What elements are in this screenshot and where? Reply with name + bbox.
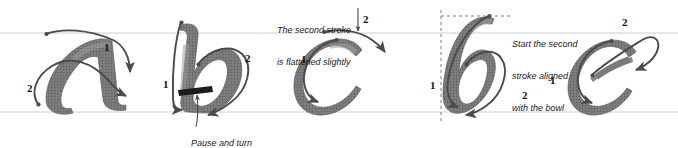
annotation-second-stroke-flattened-line1: The second stroke <box>277 25 351 36</box>
annotation-start-second-stroke-line3: with the bowl <box>512 103 578 114</box>
annotation-pause-and-turn: Pause and turn <box>181 127 252 148</box>
stroke-number-a-2: 2 <box>27 82 33 94</box>
glyph-e <box>568 37 658 115</box>
glyph-b <box>173 20 248 127</box>
annotation-start-second-stroke-line1: Start the second <box>512 39 578 50</box>
glyph-b-stroke1-arrow <box>173 22 182 110</box>
glyph-d <box>441 10 512 122</box>
annotation-second-stroke-flattened: The second stroke is flattened slightly <box>277 4 351 89</box>
stroke-order-diagram: 1 2 1 2 1 2 1 2 1 2 Pause and turn The s… <box>0 0 678 148</box>
glyph-b-letter-body <box>180 24 242 113</box>
stroke-number-d-1: 1 <box>430 79 436 91</box>
glyph-a <box>34 30 130 114</box>
annotation-pause-and-turn-text: Pause and turn <box>191 138 252 148</box>
stroke-number-b-2: 2 <box>245 52 251 64</box>
stroke-number-c-2: 2 <box>363 13 369 25</box>
stroke-number-a-1: 1 <box>104 41 110 53</box>
annotation-second-stroke-flattened-line2: is flattened slightly <box>277 57 351 68</box>
annotation-start-second-stroke: Start the second stroke aligned with the… <box>512 18 578 135</box>
stroke-number-b-1: 1 <box>163 78 169 90</box>
annotation-start-second-stroke-line2: stroke aligned <box>512 71 578 82</box>
stroke-number-e-2: 2 <box>622 16 628 28</box>
